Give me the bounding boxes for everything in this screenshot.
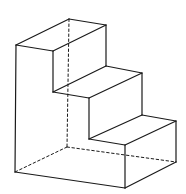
staircase-figure (0, 0, 186, 194)
edge-LK (125, 121, 176, 145)
edge-AB (16, 45, 53, 51)
edge-MN (125, 162, 176, 188)
edge-DC (69, 19, 106, 25)
edge-AO (15, 45, 16, 172)
edge-AD (16, 19, 69, 45)
edge-EH (53, 92, 89, 98)
staircase-diagram (0, 0, 186, 194)
edge-IJ (89, 115, 142, 139)
hidden-edge-DP (67, 19, 69, 147)
hidden-edge-PO (15, 147, 67, 172)
edge-JK (142, 115, 176, 121)
edge-IL (89, 139, 125, 145)
visible-edges (15, 19, 176, 188)
edge-FG (106, 66, 142, 73)
edge-OM (15, 172, 125, 188)
hidden-edge-PN (67, 147, 176, 162)
edge-BC (53, 25, 106, 51)
edge-HG (89, 73, 142, 98)
edge-EF (53, 66, 106, 92)
